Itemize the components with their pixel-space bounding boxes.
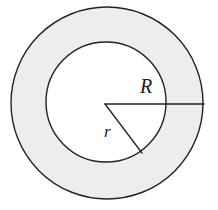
radius-r-label: r bbox=[104, 123, 111, 140]
annulus-drawing bbox=[0, 0, 218, 210]
annulus-figure: R r bbox=[0, 0, 218, 210]
radius-R-label: R bbox=[140, 76, 152, 96]
inner-circle bbox=[46, 42, 166, 162]
